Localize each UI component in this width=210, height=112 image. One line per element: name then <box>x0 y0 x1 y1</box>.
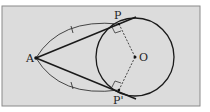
point-pprime <box>118 89 120 91</box>
point-p <box>118 23 120 25</box>
label-pprime: P' <box>113 94 123 107</box>
label-p: P <box>114 9 122 22</box>
point-a <box>34 56 38 60</box>
label-a: A <box>25 52 35 65</box>
label-o: O <box>139 51 148 64</box>
tangent-diagram: A P P' O <box>0 0 210 112</box>
point-o <box>134 56 137 59</box>
